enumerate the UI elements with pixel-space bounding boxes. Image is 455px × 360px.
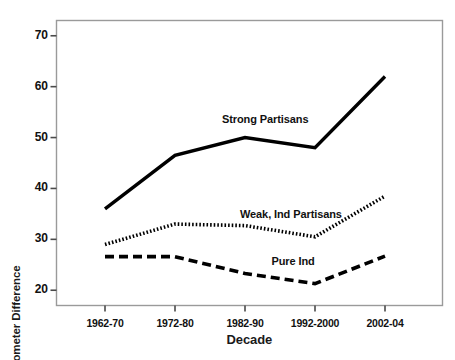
y-tick-label: 40: [14, 180, 48, 194]
y-axis-title: Mean Feeling Thermometer Difference: [10, 265, 22, 360]
series-annotation: Pure Ind: [272, 255, 315, 267]
y-tick-label: 20: [14, 282, 48, 296]
x-tick-label: 2002-04: [340, 317, 430, 329]
series-annotation: Strong Partisans: [222, 113, 308, 125]
series-annotation: Weak, Ind Partisans: [240, 208, 342, 220]
x-axis-title: Decade: [227, 332, 273, 347]
plot-frame: [57, 21, 443, 306]
y-axis-tickmarks: [51, 36, 57, 290]
chart-plot-area: [0, 0, 455, 360]
y-tick-label: 70: [14, 28, 48, 42]
y-tick-label: 60: [14, 79, 48, 93]
y-tick-label: 50: [14, 130, 48, 144]
y-tick-label: 30: [14, 231, 48, 245]
x-axis-tickmarks: [105, 306, 385, 312]
chart-figure: Mean Feeling Thermometer Difference Deca…: [0, 0, 455, 360]
